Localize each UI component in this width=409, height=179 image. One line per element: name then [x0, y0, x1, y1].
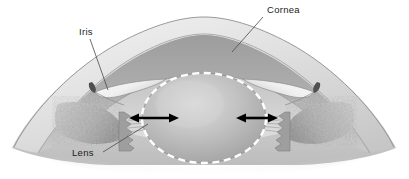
label-lens: Lens	[72, 147, 94, 158]
ciliary-texture-left	[52, 96, 128, 146]
eye-anatomy-figure: Cornea Iris Lens	[0, 0, 409, 179]
lens-highlight	[156, 80, 224, 128]
label-iris: Iris	[79, 26, 93, 37]
ciliary-texture-right	[281, 96, 357, 146]
eye-cross-section-illustration: Cornea Iris Lens	[0, 0, 409, 179]
label-cornea: Cornea	[267, 4, 300, 15]
